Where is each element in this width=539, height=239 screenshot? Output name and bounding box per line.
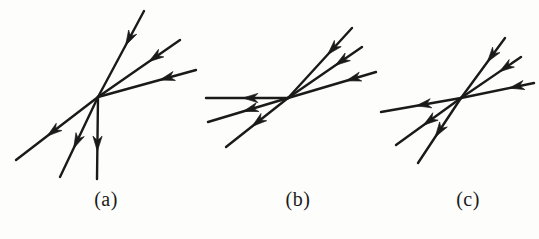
ray-arrowhead-upper-steep-ray [126,30,137,45]
ray-shaft-lower-vertical-ray [97,97,98,179]
ray-upper-steep-ray-c [461,38,505,98]
ray-shaft-upper-middle-ray [288,47,362,98]
ray-shaft-lower-left-ray [16,97,98,160]
caption-label-a: (a) [66,186,146,212]
ray-shaft-upper-steep-ray [461,38,505,98]
figure-root: (a) (b) (c) [0,0,539,239]
ray-shaft-upper-shallow-ray [98,70,196,97]
ray-shaft-upper-middle-ray [98,40,180,97]
ray-left-lower-ray-c [418,98,461,163]
vertex-panel-b [206,28,376,147]
ray-arrowhead-upper-middle-ray [149,49,164,61]
ray-left-horizontal-ray-c [381,98,461,112]
ray-upper-steep-ray-a [98,11,144,97]
ray-shaft-upper-steep-ray [98,11,144,97]
ray-upper-middle-ray-b [288,47,362,98]
vertex-panel-a [16,11,196,179]
ray-shaft-lower-middle-ray [60,97,98,177]
caption-label-c: (c) [428,186,508,212]
caption-row: (a) (b) (c) [0,186,539,226]
ray-arrowhead-upper-middle-ray [335,53,350,65]
ray-upper-middle-ray-a [98,40,180,97]
ray-left-middle-ray-b [208,98,288,122]
caption-label-b: (b) [258,186,338,212]
ray-arrowhead-left-middle-ray [423,113,438,126]
ray-lower-left-ray-a [16,97,98,160]
ray-upper-shallow-ray-a [98,70,196,97]
ray-arrowhead-upper-middle-ray [499,60,514,72]
ray-arrowhead-left-lower-ray [435,122,447,137]
vertex-panel-c [381,38,534,163]
ray-left-lower-ray-b [226,98,288,147]
ray-lower-middle-ray-a [60,97,98,177]
ray-lower-vertical-ray-a [93,97,102,179]
